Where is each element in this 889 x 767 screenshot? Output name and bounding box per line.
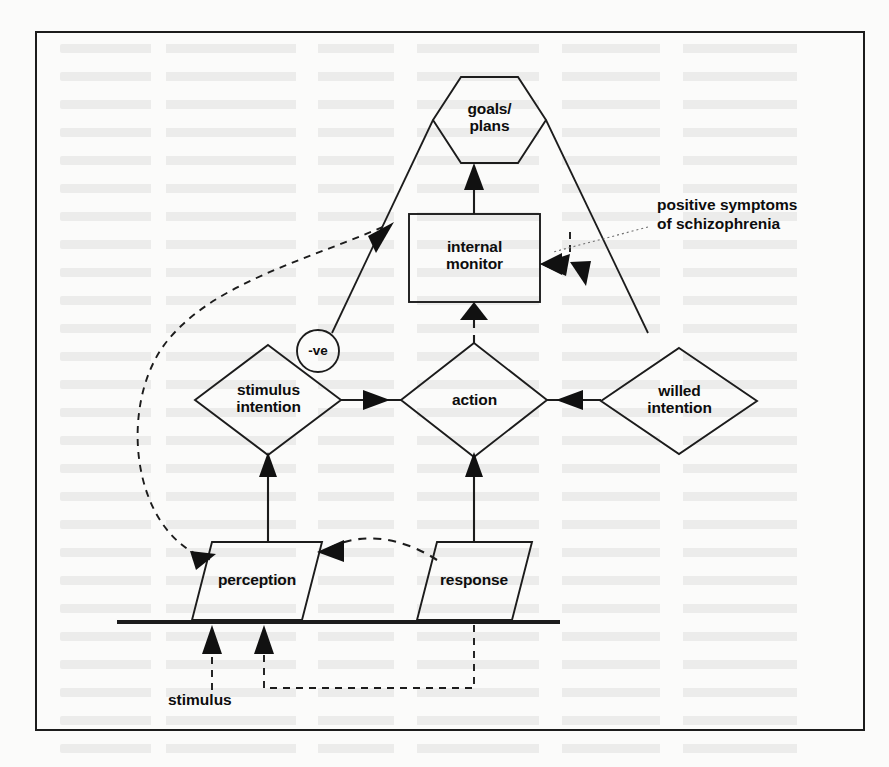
annotation-leader-line [553,227,648,252]
arrowhead-internal-monitor-to-goals-plans [464,163,484,190]
arrowhead-response-to-action [465,452,483,477]
node-stimulus-intention-shape [195,345,341,455]
badge-negative-label: -ve [298,343,338,358]
node-internal-monitor-shape [409,214,540,302]
annotation-positive-symptoms: positive symptoms of schizophrenia [657,196,872,233]
edge-response-loop-below-boundary [264,625,474,688]
edge-response-to-perception [330,538,437,560]
annotation-stimulus: stimulus [168,691,288,710]
arrowhead-goals-plans-to-willed-intention [570,261,591,286]
arrowhead-feedback-to-perception [190,551,216,570]
arrowhead-action-to-internal-monitor [460,302,488,320]
node-goals-plans-shape [433,77,546,163]
edge-goals-plans-feedback-to-perception [138,227,383,560]
edge-goals-plans-to-willed-intention [546,120,648,333]
arrowhead-stimulus-intention-to-action [363,390,390,410]
arrowhead-perception-to-stimulus-intention [259,452,277,477]
arrowhead-stimulus-to-world-boundary [202,625,222,654]
node-action-shape [401,343,547,457]
arrowhead-willed-intention-to-action [556,390,583,410]
node-willed-intention-shape [601,348,757,454]
arrowhead-response-loop-to-boundary [254,625,274,654]
arrowhead-into-internal-monitor [540,253,562,275]
diagram-canvas: .shape { fill: none; stroke: #1c1c1c; st… [0,0,889,767]
page-background: .shape { fill: none; stroke: #1c1c1c; st… [0,0,889,767]
node-response-shape [417,542,532,620]
